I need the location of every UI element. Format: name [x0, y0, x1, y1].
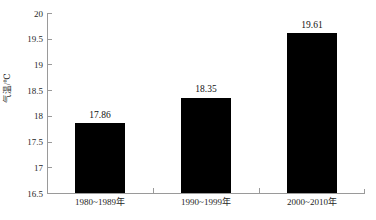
y-axis-title: 气温/℃ [3, 62, 12, 114]
y-axis-tick: 17 [47, 167, 52, 168]
y-axis-tick-mark [48, 64, 52, 65]
y-axis-tick: 18.5 [47, 90, 52, 91]
y-axis-tick-label: 17 [34, 163, 43, 172]
bar: 17.86 [75, 123, 125, 193]
x-axis-category-label: 1980~1989年 [75, 198, 125, 207]
x-axis-tick-mark [259, 188, 260, 193]
y-axis-tick: 16.5 [47, 193, 52, 194]
y-axis-tick-label: 19 [34, 60, 43, 69]
bar: 19.61 [287, 33, 337, 193]
y-axis-tick: 20 [47, 13, 52, 14]
x-axis-tick-mark [153, 188, 154, 193]
y-axis-tick: 18 [47, 116, 52, 117]
y-axis-tick: 17.5 [47, 142, 52, 143]
x-axis-end-cap [364, 189, 365, 194]
y-axis-tick-label: 18.5 [27, 86, 43, 95]
y-axis-tick-mark [48, 116, 52, 117]
plot-area: 2019.51918.51817.51716.5 17.8618.3519.61… [47, 13, 365, 194]
x-axis-line [47, 193, 365, 194]
bar-value-label: 17.86 [89, 111, 110, 121]
y-axis-tick-mark [48, 193, 52, 194]
y-axis-tick: 19 [47, 64, 52, 65]
y-axis-tick-mark [48, 39, 52, 40]
y-axis-tick-label: 17.5 [27, 138, 43, 147]
bar: 18.35 [181, 98, 231, 193]
bar-value-label: 19.61 [301, 21, 322, 31]
y-axis-tick-mark [48, 142, 52, 143]
y-axis-tick-mark [48, 167, 52, 168]
x-axis-category-label: 2000~2010年 [287, 198, 337, 207]
y-axis-tick: 19.5 [47, 39, 52, 40]
bar-value-label: 18.35 [195, 85, 216, 95]
y-axis-tick-label: 18 [34, 112, 43, 121]
x-axis-category-label: 1990~1999年 [181, 198, 231, 207]
bar-chart: 气温/℃ 2019.51918.51817.51716.5 17.8618.35… [0, 0, 376, 220]
y-axis-tick-label: 16.5 [27, 189, 43, 198]
y-axis-tick-mark [48, 13, 52, 14]
y-axis-tick-label: 19.5 [27, 35, 43, 44]
y-axis-tick-mark [48, 90, 52, 91]
y-axis-tick-label: 20 [34, 9, 43, 18]
